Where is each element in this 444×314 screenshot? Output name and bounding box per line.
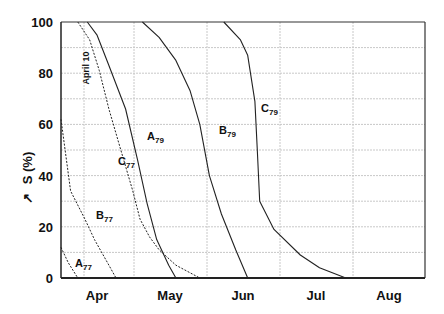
y-tick-label: 40 xyxy=(39,169,53,184)
y-tick-label: 20 xyxy=(39,220,53,235)
curve-label-c77: C77 xyxy=(118,155,135,170)
grid xyxy=(61,22,425,278)
y-tick-label: 80 xyxy=(39,66,53,81)
survival-chart: 020406080100 AprMayJunJulAug A77B77C77A7… xyxy=(0,0,444,314)
y-axis-label: S (%) xyxy=(20,152,35,185)
curve-b77 xyxy=(61,119,116,278)
y-tick-label: 100 xyxy=(31,15,53,30)
april-10-annotation: April 10 xyxy=(81,51,91,84)
y-tick-label: 60 xyxy=(39,117,53,132)
x-month-label: Jun xyxy=(231,288,254,303)
curve-label-c79: C79 xyxy=(261,102,278,117)
y-tick-label: 0 xyxy=(46,271,53,286)
x-month-label: Apr xyxy=(86,288,108,303)
x-month-label: Aug xyxy=(376,288,401,303)
x-month-label: Jul xyxy=(307,288,326,303)
y-axis-arrow-icon: ↗ xyxy=(20,193,35,204)
curve-labels: A77B77C77A79B79C79 xyxy=(75,102,278,272)
x-month-label: May xyxy=(157,288,183,303)
y-tick-labels: 020406080100 xyxy=(31,15,53,286)
curve-label-b77: B77 xyxy=(96,209,113,224)
curve-label-a79: A79 xyxy=(147,130,164,145)
curve-label-b79: B79 xyxy=(219,124,236,139)
x-month-labels: AprMayJunJulAug xyxy=(86,288,402,303)
